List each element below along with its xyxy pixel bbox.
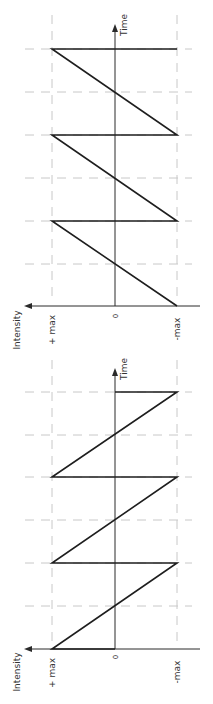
arrow-up-icon — [112, 368, 118, 376]
tick-label-zero: 0 — [112, 314, 120, 318]
arrow-left-icon — [24, 646, 32, 652]
tick-label-minus-max: -max — [172, 317, 182, 341]
arrow-left-icon — [24, 303, 32, 309]
grid-horizontal — [25, 49, 192, 264]
tick-label-minus-max: -max — [172, 660, 182, 684]
tick-label-plus-max: + max — [47, 657, 57, 688]
figure: Time Intensity + max 0 -max Time Inte — [0, 0, 213, 704]
chart-rising-sawtooth: Time Intensity + max 0 -max — [12, 14, 200, 350]
grid-horizontal — [25, 392, 192, 606]
arrow-up-icon — [112, 24, 118, 32]
time-axis-label: Time — [119, 14, 129, 37]
chart-falling-sawtooth: Time Intensity + max 0 -max — [12, 358, 200, 692]
time-axis-label: Time — [119, 358, 129, 381]
intensity-axis-label: Intensity — [12, 310, 22, 350]
tick-label-zero: 0 — [112, 655, 120, 659]
intensity-axis-label: Intensity — [12, 652, 22, 692]
tick-label-plus-max: + max — [47, 314, 57, 345]
